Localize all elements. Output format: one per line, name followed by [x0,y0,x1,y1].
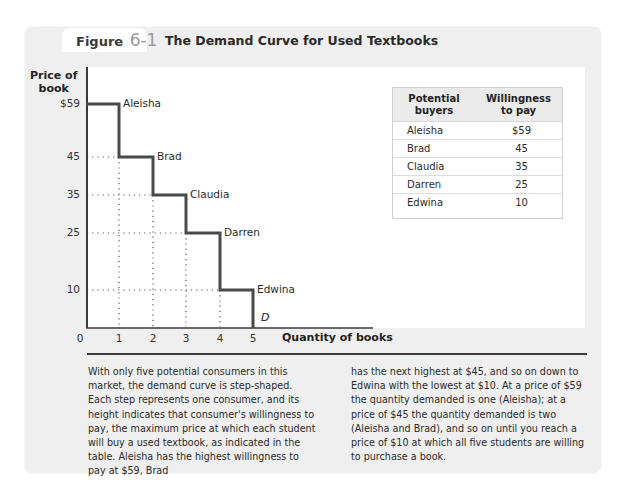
demand-curve [87,104,253,328]
table-header: Potential buyers Willingness to pay [393,88,562,122]
step-label-darren: Darren [224,226,260,238]
buyer-cell: Brad [393,140,475,157]
y-tick-25: 25 [40,226,80,238]
demand-curve-label: D [261,311,269,324]
caption-divider [87,353,587,355]
willingness-table: Potential buyers Willingness to pay Alei… [392,87,563,219]
y-tick-10: 10 [40,283,80,295]
x-tick-5: 5 [246,332,260,344]
table-row: Brad 45 [393,140,562,158]
x-tick-1: 1 [112,332,126,344]
wtp-cell: $59 [475,122,562,139]
buyer-cell: Darren [393,176,475,193]
header-line: Potential [408,93,459,104]
header-line: to pay [501,105,536,116]
y-tick-35: 35 [40,188,80,200]
table-row: Darren 25 [393,176,562,194]
y-tick-59: $59 [40,97,80,109]
wtp-cell: 10 [475,194,562,211]
buyer-cell: Aleisha [393,122,475,139]
table-row: Aleisha $59 [393,122,562,140]
y-axis-label: Price of book [30,69,77,95]
table-row: Edwina 10 [393,194,562,211]
caption-column-1: With only five potential consumers in th… [88,365,318,479]
header-potential-buyers: Potential buyers [393,88,475,121]
x-tick-0: 0 [73,332,87,344]
header-line: buyers [415,105,453,116]
y-tick-45: 45 [40,150,80,162]
buyer-cell: Edwina [393,194,475,211]
y-axis-label-line2: book [30,82,77,95]
table-row: Claudia 35 [393,158,562,176]
header-line: Willingness [486,93,551,104]
wtp-cell: 25 [475,176,562,193]
step-label-edwina: Edwina [257,283,295,295]
wtp-cell: 35 [475,158,562,175]
x-axis-label: Quantity of books [282,331,393,344]
header-willingness-to-pay: Willingness to pay [475,88,562,121]
x-tick-2: 2 [146,332,160,344]
x-tick-3: 3 [179,332,193,344]
y-axis-label-line1: Price of [30,69,77,82]
buyer-cell: Claudia [393,158,475,175]
wtp-cell: 45 [475,140,562,157]
x-tick-4: 4 [213,332,227,344]
caption-column-2: has the next highest at $45, and so on d… [351,365,591,464]
step-label-brad: Brad [157,150,182,162]
step-label-aleisha: Aleisha [123,97,161,109]
step-label-claudia: Claudia [190,188,229,200]
